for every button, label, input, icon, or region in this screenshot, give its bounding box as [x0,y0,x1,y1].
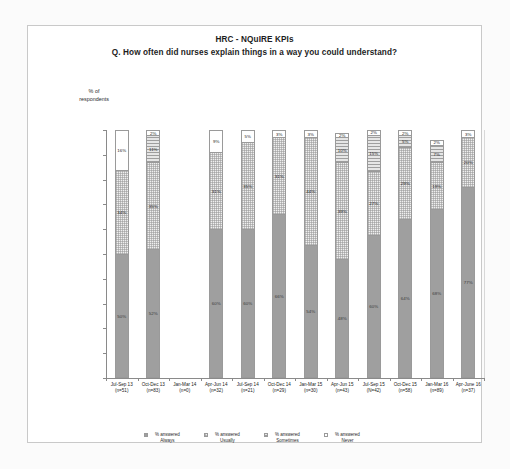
column-segment-always[interactable]: 60% [241,229,255,378]
column-segment-always[interactable]: 77% [461,187,475,378]
column-segment-always[interactable]: 64% [398,219,412,378]
stacked-column[interactable]: 60%35%5% [241,130,255,378]
x-axis-tick-mark [138,378,139,381]
column-segment-usually[interactable]: 31% [272,137,286,214]
stacked-column[interactable]: 60%31%9% [209,130,223,378]
stacked-column[interactable]: 50%34%16% [115,130,129,378]
column-segment-never[interactable]: 2% [367,130,381,135]
segment-value-label: 48% [338,316,347,321]
x-axis-tick-mark [484,378,485,381]
x-axis-tick-mark [106,378,107,381]
legend-item[interactable]: % answeredNever [324,432,366,444]
y-axis-caption-line1: % of [89,88,100,94]
legend-label: % answeredAlways [150,432,186,444]
stacked-column[interactable]: 66%31%3% [272,130,286,378]
segment-value-label: 39% [338,209,347,214]
segment-value-label: 11% [149,147,157,152]
x-axis-tick-mark [201,378,202,381]
legend-label-line2: Usually [210,438,246,444]
legend-label: % answeredUsually [210,432,246,444]
legend-swatch-sometimes [264,433,268,437]
column-segment-never[interactable]: 2% [398,130,412,135]
column-segment-always[interactable]: 66% [272,214,286,378]
stacked-column[interactable]: 60%27%15%2% [367,130,381,378]
column-segment-never[interactable]: 5% [241,130,255,142]
segment-value-label: 31% [275,174,284,179]
column-segment-sometimes[interactable]: 5% [398,135,412,147]
column-segment-usually[interactable]: 31% [209,152,223,229]
column-segment-never[interactable]: 2% [335,133,349,138]
column-segment-always[interactable]: 52% [146,249,160,378]
column-segment-never[interactable]: 2% [430,140,444,145]
column-segment-usually[interactable]: 35% [146,162,160,249]
x-axis-tick-mark [295,378,296,381]
segment-value-label: 60% [212,301,221,306]
segment-value-label: 35% [149,204,158,209]
legend-item[interactable]: % answeredUsually [204,432,246,444]
column-segment-never[interactable]: 9% [209,130,223,152]
segment-value-label: 64% [401,296,410,301]
column-segment-usually[interactable]: 27% [367,171,381,235]
legend-swatch-never [324,433,328,437]
segment-value-label: 15% [369,151,378,156]
segment-value-label: 2% [371,130,377,134]
column-segment-never[interactable]: 3% [272,130,286,137]
segment-value-label: 20% [464,160,473,165]
column-segment-sometimes[interactable]: 10% [335,137,349,162]
segment-value-label: 3% [276,132,282,137]
legend-swatch-always [144,433,148,437]
segment-value-label: 9% [213,139,219,144]
segment-value-label: 29% [401,181,410,186]
segment-value-label: 31% [212,189,221,194]
x-axis-tick-mark [421,378,422,381]
segment-value-label: 77% [464,280,473,285]
segment-value-label: 7% [434,152,440,157]
x-axis-tick-mark [169,378,170,381]
chart-page: HRC - NQuIRE KPIs Q. How often did nurse… [0,0,510,469]
stacked-column[interactable]: 77%20%3% [461,130,475,378]
stacked-column[interactable]: 68%19%7%2% [430,130,444,378]
column-segment-usually[interactable]: 34% [115,170,129,254]
column-segment-always[interactable]: 50% [115,254,129,378]
y-axis-caption: % of respondents [72,88,116,103]
chart-sheet: HRC - NQuIRE KPIs Q. How often did nurse… [27,25,482,443]
column-segment-never[interactable]: 2% [146,130,160,135]
legend-item[interactable]: % answeredAlways [144,432,186,444]
legend-item[interactable]: % answeredSometimes [264,432,306,444]
segment-value-label: 54% [306,309,315,314]
column-segment-sometimes[interactable]: 11% [146,135,160,162]
column-segment-always[interactable]: 60% [209,229,223,378]
x-axis-tick-mark [264,378,265,381]
column-segment-usually[interactable]: 29% [398,147,412,219]
column-segment-never[interactable]: 3% [304,130,318,137]
legend-label: % answeredSometimes [270,432,306,444]
segment-value-label: 60% [369,304,378,309]
column-segment-usually[interactable]: 39% [335,162,349,259]
segment-value-label: 3% [308,132,314,137]
chart-legend: % answeredAlways% answeredUsually% answe… [28,432,481,444]
column-segment-sometimes[interactable]: 15% [367,135,381,171]
stacked-column[interactable]: 48%39%10%2% [335,130,349,378]
column-segment-always[interactable]: 60% [367,235,381,378]
legend-label-line2: Always [150,438,186,444]
x-axis-tick-mark [232,378,233,381]
column-segment-sometimes[interactable]: 7% [430,145,444,162]
stacked-column[interactable]: 54%44%3% [304,130,318,378]
column-segment-usually[interactable]: 20% [461,137,475,187]
x-axis-sample-size: (n=37) [445,388,491,394]
column-segment-usually[interactable]: 44% [304,137,318,245]
column-segment-never[interactable]: 3% [461,130,475,137]
segment-value-label: 68% [432,291,441,296]
column-segment-always[interactable]: 68% [430,209,444,378]
stacked-column[interactable]: 64%29%5%2% [398,130,412,378]
stacked-column[interactable]: 52%35%11%2% [146,130,160,378]
plot-right-edge [484,130,485,379]
column-segment-usually[interactable]: 35% [241,142,255,229]
column-segment-usually[interactable]: 19% [430,162,444,209]
column-segment-always[interactable]: 54% [304,245,318,378]
legend-label-line2: Sometimes [270,438,306,444]
legend-swatch-usually [204,433,208,437]
column-segment-never[interactable]: 16% [115,130,129,170]
column-segment-always[interactable]: 48% [335,259,349,378]
segment-value-label: 2% [402,131,408,135]
